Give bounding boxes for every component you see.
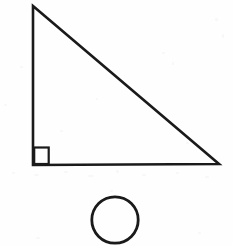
geometry-figure-svg: [0, 0, 233, 246]
geometry-figure-canvas: [0, 0, 233, 246]
right-angle-marker-icon: [34, 148, 49, 165]
circle-shape: [92, 197, 138, 243]
right-triangle-shape: [33, 6, 219, 165]
